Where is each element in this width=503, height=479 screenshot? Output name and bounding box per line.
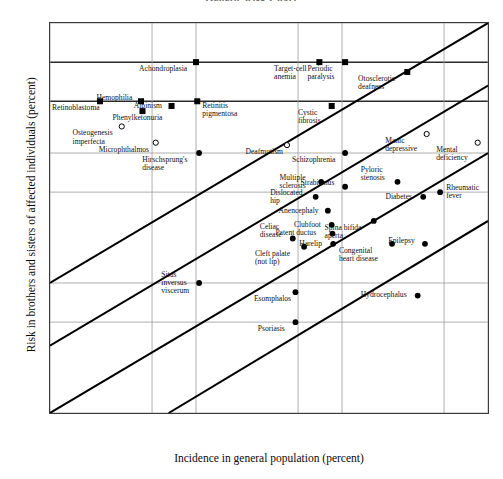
data-point-label: Congenital heart disease (339, 247, 378, 263)
data-point-label: Strabismus (301, 179, 335, 187)
data-point-circle (325, 208, 331, 214)
data-point-circle (293, 289, 299, 295)
data-point-label: Microphthalmos (99, 146, 149, 154)
data-point-open-circle (153, 140, 158, 145)
data-point-square (193, 59, 199, 65)
data-point-circle (420, 194, 426, 200)
data-point-circle (342, 150, 348, 156)
chart-figure: Genetic Risk Chart Risk in brothers and … (0, 0, 503, 479)
data-point-open-circle (119, 124, 124, 129)
data-point-label: Albinism (134, 102, 162, 110)
data-point-label: Hydrocephalus (361, 291, 407, 299)
data-point-label: Pyloric stenosis (361, 166, 385, 182)
data-point-label: Epilepsy (388, 237, 415, 245)
data-point-open-circle (424, 131, 429, 136)
data-point-circle (196, 150, 202, 156)
data-point-circle (415, 293, 421, 299)
data-point-label: Target-cell anemia (274, 65, 307, 81)
data-point-square (404, 69, 410, 75)
plot-area: AchondroplasiaTarget-cell anemiaPeriodic… (49, 22, 489, 414)
data-point-label: Achondroplasia (139, 65, 187, 73)
data-point-label: Rheumatic fever (446, 184, 479, 200)
data-point-label: Mental deficiency (436, 146, 468, 162)
data-point-square (329, 103, 335, 109)
data-point-square (194, 98, 200, 104)
data-point-label: Cystic fibrosis (298, 109, 321, 125)
data-point-label: Retinitis pigmentosa (202, 102, 237, 118)
data-point-open-circle (284, 143, 289, 148)
data-point-label: Harelip (299, 240, 322, 248)
data-point-circle (342, 184, 348, 190)
data-point-label: Hirschsprung's disease (142, 156, 187, 172)
x-axis-title: Incidence in general population (percent… (49, 452, 489, 464)
data-point-label: Hemophilia (96, 94, 132, 102)
data-points-layer (50, 23, 488, 413)
data-point-label: Schizophrenia (292, 156, 335, 164)
data-point-label: Osteogenesis imperfecta (73, 129, 113, 145)
data-point-square (169, 103, 175, 109)
data-point-circle (437, 189, 443, 195)
data-point-label: Situs inversus viscerum (161, 271, 189, 296)
data-point-circle (371, 218, 377, 224)
data-point-open-circle (475, 140, 480, 145)
data-point-label: Otosclerotic deafness (358, 75, 395, 91)
data-point-label: Manic depressive (385, 137, 417, 153)
data-point-label: Cleft palate (not lip) (255, 250, 290, 266)
y-axis-title: Risk in brothers and sisters of affected… (26, 25, 38, 405)
data-point-circle (422, 241, 428, 247)
data-point-label: Esomphalos (254, 295, 291, 303)
data-point-square (342, 59, 348, 65)
data-point-label: Retinoblastoma (52, 104, 100, 112)
chart-title: Genetic Risk Chart (0, 0, 503, 1)
data-point-circle (330, 241, 336, 247)
data-point-label: Anencephaly (279, 207, 319, 215)
data-point-label: Dislocated hip (270, 189, 302, 205)
data-point-circle (293, 319, 299, 325)
data-point-circle (313, 194, 319, 200)
data-point-label: Celiac disease (260, 223, 282, 239)
data-point-label: Spina bifida aperta (325, 224, 362, 240)
data-point-label: Deafmutism (245, 148, 283, 156)
data-point-label: Diabetes (385, 193, 412, 201)
data-point-label: Periodic paralysis (307, 65, 334, 81)
data-point-label: Psoriasis (258, 325, 285, 333)
data-point-circle (196, 280, 202, 286)
data-point-circle (395, 179, 401, 185)
data-point-label: Phenylketonuria (113, 114, 163, 122)
